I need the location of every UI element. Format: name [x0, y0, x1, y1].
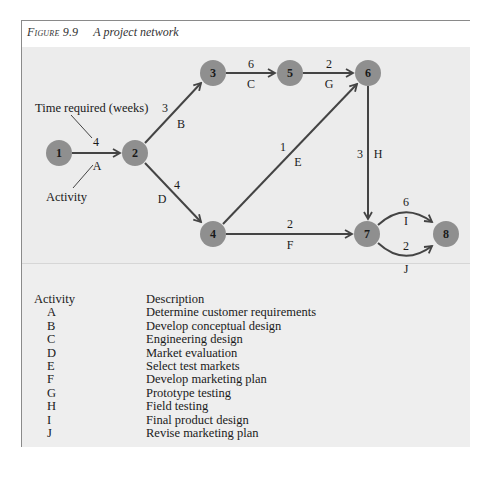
legend-activity: Activity — [46, 190, 88, 204]
activity-code: D — [34, 347, 146, 360]
edge-b-activity: B — [177, 117, 185, 131]
activity-pointer-line — [73, 165, 93, 188]
node-4: 4 — [200, 221, 226, 247]
node-3: 3 — [200, 60, 226, 86]
node-2-label: 2 — [132, 146, 138, 160]
table-header-row: Activity Description — [34, 293, 316, 306]
activity-code: G — [34, 387, 146, 400]
node-5: 5 — [277, 60, 303, 86]
node-3-label: 3 — [210, 66, 216, 80]
node-1-label: 1 — [56, 146, 62, 160]
edge-b — [145, 83, 201, 143]
edge-e-activity: E — [294, 155, 301, 169]
edge-g-weeks: 2 — [326, 57, 332, 71]
edge-e-weeks: 1 — [280, 140, 286, 154]
edge-c-weeks: 6 — [248, 57, 254, 71]
table-row: B Develop conceptual design — [34, 320, 316, 333]
activity-description: Select test markets — [146, 360, 316, 373]
header-activity: Activity — [34, 293, 146, 306]
header-description: Description — [146, 293, 316, 306]
time-pointer-line — [71, 115, 92, 138]
table-row: G Prototype testing — [34, 387, 316, 400]
edge-a-activity: A — [93, 159, 102, 173]
activity-code: E — [34, 360, 146, 373]
table-row: E Select test markets — [34, 360, 316, 373]
activity-table: Activity Description A Determine custome… — [34, 293, 316, 440]
table-row: F Develop marketing plan — [34, 373, 316, 386]
activity-description: Field testing — [146, 400, 316, 413]
node-4-label: 4 — [210, 227, 216, 241]
activity-code: B — [34, 320, 146, 333]
node-7-label: 7 — [364, 227, 370, 241]
activity-code: A — [34, 306, 146, 319]
node-8: 8 — [433, 221, 459, 247]
edge-f-activity: F — [287, 238, 294, 252]
activity-code: C — [34, 333, 146, 346]
activity-code: H — [34, 400, 146, 413]
edge-h-weeks: 3 — [357, 147, 363, 161]
edge-g-activity: G — [325, 77, 334, 91]
edge-c-activity: C — [247, 77, 255, 91]
node-1: 1 — [46, 140, 72, 166]
activity-description: Develop conceptual design — [146, 320, 316, 333]
edge-e — [223, 84, 357, 224]
edge-d-activity: D — [158, 192, 167, 206]
activity-code: F — [34, 373, 146, 386]
activity-description: Determine customer requirements — [146, 306, 316, 319]
legend-time-required: Time required (weeks) — [35, 101, 148, 115]
edge-j-weeks: 2 — [403, 239, 409, 253]
activity-description: Final product design — [146, 414, 316, 427]
node-7: 7 — [354, 221, 380, 247]
edge-i-weeks: 6 — [403, 195, 409, 209]
table-row: I Final product design — [34, 414, 316, 427]
activity-description: Develop marketing plan — [146, 373, 316, 386]
table-row: J Revise marketing plan — [34, 427, 316, 440]
edge-f-weeks: 2 — [287, 217, 293, 231]
edge-d-weeks: 4 — [174, 178, 180, 192]
node-2: 2 — [122, 140, 148, 166]
edge-b-weeks: 3 — [162, 101, 168, 115]
activity-description: Revise marketing plan — [146, 427, 316, 440]
activity-code: J — [34, 427, 146, 440]
activity-code: I — [34, 414, 146, 427]
activity-description: Engineering design — [146, 333, 316, 346]
activity-description: Market evaluation — [146, 347, 316, 360]
edge-a-weeks: 4 — [93, 135, 99, 149]
table-row: A Determine customer requirements — [34, 306, 316, 319]
node-6: 6 — [355, 60, 381, 86]
table-row: H Field testing — [34, 400, 316, 413]
edge-i-activity: I — [404, 214, 408, 228]
edge-d — [145, 163, 201, 222]
node-6-label: 6 — [365, 66, 371, 80]
node-5-label: 5 — [287, 66, 293, 80]
table-row: C Engineering design — [34, 333, 316, 346]
edge-h-activity: H — [374, 147, 383, 161]
edge-j-activity: J — [404, 262, 409, 276]
activity-description: Prototype testing — [146, 387, 316, 400]
node-8-label: 8 — [443, 227, 449, 241]
table-row: D Market evaluation — [34, 347, 316, 360]
